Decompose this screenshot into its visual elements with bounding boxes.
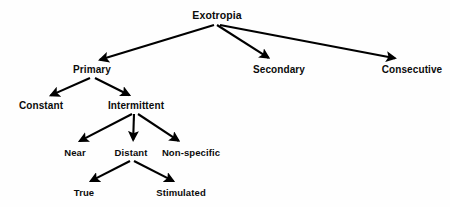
edge-distant-to-stimulated	[134, 161, 173, 181]
edge-intermittent-to-distant	[133, 114, 134, 140]
node-intermittent: Intermittent	[108, 101, 164, 111]
edge-intermittent-to-near	[80, 114, 132, 141]
node-stimulated: Stimulated	[156, 188, 206, 198]
node-exotropia: Exotropia	[192, 10, 241, 21]
node-constant: Constant	[19, 101, 63, 111]
edge-intermittent-to-nonspecific	[138, 114, 179, 141]
edge-distant-to-true	[91, 161, 130, 181]
edge-primary-to-constant	[51, 78, 90, 95]
diagram-edges	[51, 25, 395, 181]
edge-exotropia-to-consecutive	[220, 25, 395, 58]
diagram-edge-layer	[0, 0, 450, 207]
edge-exotropia-to-secondary	[217, 25, 269, 58]
node-near: Near	[64, 148, 86, 158]
node-true: True	[74, 188, 94, 198]
node-distant: Distant	[115, 148, 148, 158]
exotropia-classification-diagram: Exotropia Primary Secondary Consecutive …	[0, 0, 450, 207]
node-secondary: Secondary	[253, 65, 305, 75]
edge-primary-to-intermittent	[95, 78, 129, 95]
edge-exotropia-to-primary	[100, 25, 214, 60]
node-primary: Primary	[73, 65, 111, 75]
node-consecutive: Consecutive	[382, 65, 443, 75]
node-non-specific: Non-specific	[162, 148, 220, 158]
